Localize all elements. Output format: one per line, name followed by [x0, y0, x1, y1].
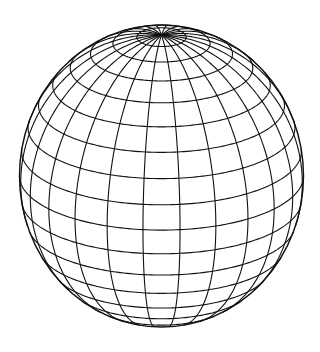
- grid-line: [162, 35, 181, 327]
- sphere-diagram: [0, 0, 320, 352]
- grid-line: [91, 36, 233, 81]
- grid-line: [109, 316, 215, 325]
- grid-line: [113, 25, 210, 62]
- sphere-outline: [20, 25, 304, 327]
- grid-line: [22, 149, 302, 205]
- wireframe-sphere: [0, 0, 320, 352]
- grid-line: [22, 205, 301, 254]
- grid-line: [39, 96, 285, 153]
- grid-line: [20, 176, 304, 230]
- grid-line: [28, 121, 295, 178]
- grid-line: [81, 301, 241, 319]
- parallel-lines: [20, 25, 304, 325]
- meridian-lines: [21, 25, 303, 327]
- grid-line: [143, 35, 162, 327]
- grid-line: [70, 52, 253, 103]
